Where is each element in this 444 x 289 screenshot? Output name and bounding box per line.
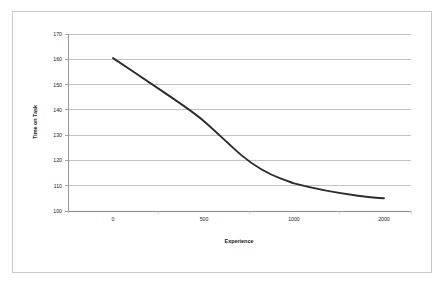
y-axis-title: Time on Task: [32, 105, 38, 139]
figure-root: 170 160 150 140 130 120 110 100: [0, 0, 444, 289]
y-tick-labels: 170 160 150 140 130 120 110 100: [53, 31, 62, 214]
x-tick-label-500: 500: [200, 216, 209, 222]
x-tick-label-2000: 2000: [378, 216, 390, 222]
y-tick-marks: [65, 34, 68, 211]
chart-frame: 170 160 150 140 130 120 110 100: [12, 11, 432, 273]
line-chart: 170 160 150 140 130 120 110 100: [13, 12, 433, 274]
plot-background: [68, 34, 411, 211]
y-tick-label-110: 110: [54, 183, 62, 189]
y-tick-label-160: 160: [53, 56, 62, 62]
x-tick-labels: 0 500 1000 2000: [112, 216, 390, 222]
x-tick-label-1000: 1000: [288, 216, 300, 222]
y-tick-label-140: 140: [53, 107, 62, 113]
y-tick-label-120: 120: [53, 157, 62, 163]
x-axis-title: Experience: [225, 238, 254, 244]
y-tick-label-150: 150: [53, 82, 62, 88]
x-tick-label-0: 0: [112, 216, 115, 222]
x-tick-marks: [68, 211, 411, 214]
plot-wrapper: 170 160 150 140 130 120 110 100: [13, 12, 433, 274]
y-tick-label-130: 130: [53, 132, 62, 138]
y-tick-label-170: 170: [53, 31, 62, 37]
y-tick-label-100: 100: [53, 208, 62, 214]
